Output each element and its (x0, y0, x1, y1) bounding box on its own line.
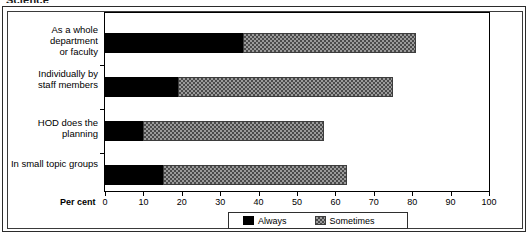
bar-segment-always (105, 77, 178, 97)
legend-label-always: Always (258, 216, 287, 226)
bar-segment-always (105, 33, 243, 53)
bar-segment-sometimes (243, 33, 416, 53)
figure-title: Science (6, 0, 49, 3)
legend-item-always: Always (243, 216, 287, 226)
stacked-bar (105, 33, 416, 53)
x-axis-tick (143, 192, 144, 196)
chart-figure: Science As a whole department or faculty… (0, 0, 530, 236)
legend-label-sometimes: Sometimes (330, 216, 375, 226)
category-label-2: HOD does the planning (6, 117, 98, 139)
x-axis-tick-label: 10 (131, 197, 155, 207)
category-label-1: Individually by staff members (6, 68, 98, 90)
plot-area (104, 12, 490, 192)
y-axis-tick (100, 109, 105, 110)
x-axis-tick-label: 30 (208, 197, 232, 207)
x-axis-tick (374, 192, 375, 196)
x-axis-tick-label: 40 (247, 197, 271, 207)
bar-segment-always (105, 165, 163, 185)
category-label-3: In small topic groups (6, 158, 98, 169)
x-axis-tick (335, 192, 336, 196)
x-axis-tick (451, 192, 452, 196)
x-axis-tick (297, 192, 298, 196)
legend-item-sometimes: Sometimes (315, 216, 375, 226)
x-axis-label: Per cent (60, 197, 96, 207)
category-label-0: As a whole department or faculty (6, 24, 98, 57)
x-axis-tick (489, 192, 490, 196)
y-axis-tick (100, 153, 105, 154)
x-axis-tick (220, 192, 221, 196)
stacked-bar (105, 165, 347, 185)
x-axis-tick-label: 20 (170, 197, 194, 207)
y-axis-tick (100, 65, 105, 66)
bar-segment-sometimes (143, 121, 323, 141)
x-axis-tick-label: 80 (400, 197, 424, 207)
legend-swatch-always-icon (243, 216, 254, 225)
x-axis-tick-label: 90 (439, 197, 463, 207)
x-axis-tick-label: 60 (323, 197, 347, 207)
bar-group (105, 33, 489, 53)
x-axis-tick (105, 192, 106, 196)
bar-segment-sometimes (163, 165, 347, 185)
x-axis-tick-label: 0 (93, 197, 117, 207)
x-axis-tick (412, 192, 413, 196)
bar-segment-always (105, 121, 143, 141)
x-axis-tick (182, 192, 183, 196)
x-axis-tick-label: 50 (285, 197, 309, 207)
x-axis-tick-label: 70 (362, 197, 386, 207)
bar-group (105, 121, 489, 141)
bar-segment-sometimes (178, 77, 393, 97)
bar-group (105, 77, 489, 97)
x-axis-tick (259, 192, 260, 196)
bar-group (105, 165, 489, 185)
legend-swatch-sometimes-icon (315, 216, 326, 225)
stacked-bar (105, 77, 393, 97)
x-axis-tick-label: 100 (477, 197, 501, 207)
stacked-bar (105, 121, 324, 141)
legend: Always Sometimes (228, 212, 408, 229)
x-axis: 0102030405060708090100 (104, 192, 490, 212)
